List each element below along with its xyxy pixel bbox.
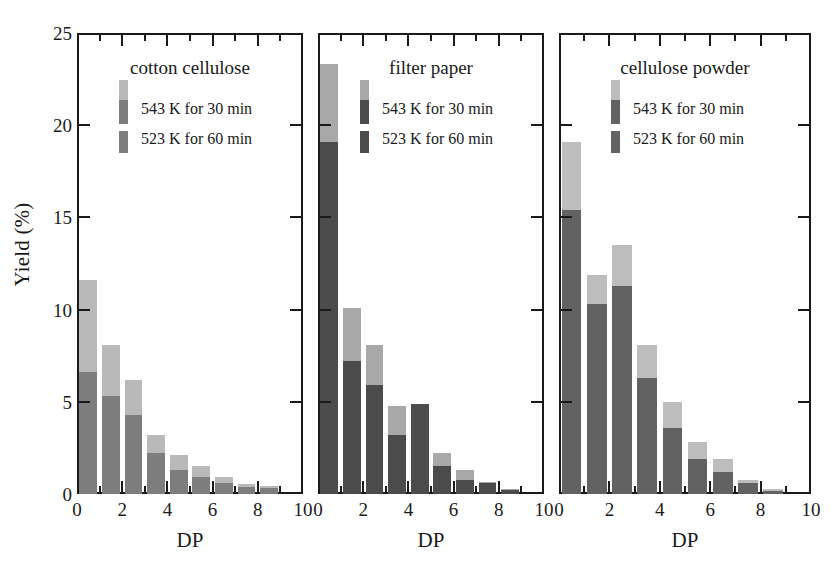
y-axis-tick [531, 401, 544, 403]
x-axis-tick [734, 33, 736, 41]
legend-swatch-543k [611, 80, 620, 124]
bar-segment-lower [738, 483, 758, 494]
x-tick-label: 10 [294, 499, 313, 521]
x-axis-tick [498, 481, 500, 494]
bar-segment-upper [215, 477, 233, 483]
bar-segment-lower [688, 459, 708, 494]
x-axis-tick [279, 486, 281, 494]
chart-panel: cellulose powder543 K for 30 min523 K fo… [559, 33, 811, 494]
x-axis-tick [498, 33, 500, 46]
x-axis-label: DP [418, 528, 445, 553]
y-tick-label: 0 [38, 485, 72, 504]
bar [411, 404, 429, 494]
x-axis-tick [212, 481, 214, 494]
bar-segment-lower [260, 488, 278, 494]
x-axis-tick [430, 33, 432, 41]
x-tick-label: 2 [117, 499, 127, 521]
bar-segment-upper [320, 64, 338, 141]
y-axis-tick [559, 216, 572, 218]
x-axis-tick [608, 33, 610, 46]
x-axis-tick [760, 481, 762, 494]
x-axis-tick [634, 33, 636, 41]
legend-label-543k: 543 K for 30 min [382, 100, 493, 118]
bar-segment-lower [713, 472, 733, 494]
bar [238, 484, 256, 494]
legend-swatch-light-part [611, 80, 620, 100]
x-tick-label: 8 [756, 499, 766, 521]
x-axis-tick [99, 486, 101, 494]
bar-segment-upper [343, 308, 361, 361]
bar [688, 442, 708, 494]
y-axis-tick-labels: 0510152025 [34, 0, 72, 575]
x-axis-tick [760, 33, 762, 46]
bar-segment-lower [147, 453, 165, 494]
x-axis-tick [144, 486, 146, 494]
x-axis-tick [340, 486, 342, 494]
x-tick-label: 2 [605, 499, 615, 521]
bar-segment-upper [260, 486, 278, 488]
y-axis-tick [559, 309, 572, 311]
bar [388, 406, 406, 494]
x-axis-tick [785, 486, 787, 494]
legend-swatch-light-part [119, 80, 128, 100]
x-tick-label: 0 [554, 499, 564, 521]
x-axis-tick [234, 486, 236, 494]
x-axis-tick [659, 481, 661, 494]
x-tick-label: 6 [208, 499, 218, 521]
x-tick-label: 6 [449, 499, 459, 521]
bar-segment-lower [562, 210, 582, 494]
y-tick-label: 5 [38, 392, 72, 411]
bar-segment-lower [388, 435, 406, 494]
y-axis-tick [318, 216, 331, 218]
x-tick-label: 0 [313, 499, 323, 521]
bar-segment-lower [612, 286, 632, 494]
bar [713, 459, 733, 494]
panel-title: cellulose powder [620, 57, 749, 79]
x-axis-tick [785, 33, 787, 41]
x-axis-tick [121, 33, 123, 46]
y-axis-tick [531, 216, 544, 218]
x-axis-tick [189, 486, 191, 494]
x-axis-tick [407, 481, 409, 494]
bar [260, 486, 278, 494]
bar [215, 477, 233, 494]
legend-swatch-543k [119, 80, 128, 124]
x-tick-label: 4 [163, 499, 173, 521]
x-axis-tick [709, 481, 711, 494]
x-tick-label: 0 [72, 499, 82, 521]
bar-segment-upper [238, 484, 256, 487]
legend-label-523k: 523 K for 60 min [141, 130, 252, 148]
bar [501, 489, 519, 494]
bar-segment-lower [663, 428, 683, 494]
bar [79, 280, 97, 494]
bar-segment-upper [501, 489, 519, 490]
bar-segment-upper [388, 406, 406, 435]
x-axis-tick [475, 33, 477, 41]
x-tick-label: 10 [802, 499, 821, 521]
x-axis-tick [257, 33, 259, 46]
x-tick-label: 8 [494, 499, 504, 521]
bar-segment-upper [366, 345, 384, 386]
y-axis-tick [290, 401, 303, 403]
x-axis-tick [583, 33, 585, 41]
x-tick-label: 6 [705, 499, 715, 521]
y-axis-tick [318, 124, 331, 126]
y-axis-tick [318, 309, 331, 311]
y-axis-tick [77, 401, 90, 403]
x-axis-tick [583, 486, 585, 494]
y-axis-tick [290, 216, 303, 218]
x-axis-tick [430, 486, 432, 494]
bar-segment-upper [562, 142, 582, 210]
x-tick-label: 8 [253, 499, 263, 521]
chart-panel: cotton cellulose543 K for 30 min523 K fo… [77, 33, 303, 494]
panel-title: cotton cellulose [130, 57, 250, 79]
bar [663, 402, 683, 494]
y-axis-label: Yield (%) [10, 175, 35, 315]
bar-segment-upper [713, 459, 733, 472]
x-axis-tick [453, 33, 455, 46]
y-axis-tick [798, 124, 811, 126]
legend-swatch-dark-part [360, 100, 369, 124]
bar [102, 345, 120, 494]
x-axis-tick [608, 481, 610, 494]
y-tick-label: 20 [38, 116, 72, 135]
